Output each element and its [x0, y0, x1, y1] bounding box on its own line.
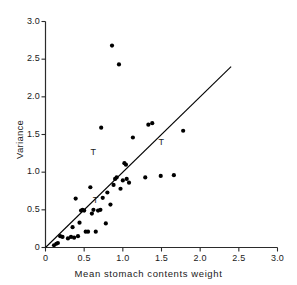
identity-line-path [46, 67, 232, 248]
data-point [131, 135, 135, 139]
data-point [127, 181, 131, 185]
plot-canvas [0, 0, 297, 285]
x-tick-label: 2.5 [224, 253, 254, 263]
data-point [121, 178, 125, 182]
data-points [52, 44, 185, 248]
data-point [105, 190, 109, 194]
y-tick-label: 1.0 [8, 166, 40, 176]
data-point [111, 183, 115, 187]
x-tick-label: 0.5 [69, 253, 99, 263]
data-point [90, 212, 94, 216]
data-point [98, 208, 102, 212]
y-tick-label: 0 [8, 242, 40, 252]
data-point [181, 129, 185, 133]
x-tick-label: 3.0 [263, 253, 293, 263]
x-tick-label: 2.0 [185, 253, 215, 263]
data-point [70, 225, 74, 229]
t-annotation: T [93, 196, 99, 205]
y-axis-title: Variance [14, 119, 25, 158]
data-point [150, 121, 154, 125]
data-point [88, 185, 92, 189]
data-point [146, 123, 150, 127]
data-point [101, 196, 105, 200]
data-point [77, 221, 81, 225]
y-tick-label: 2.0 [8, 91, 40, 101]
x-axis-title: Mean stomach contents weight [0, 268, 297, 279]
data-point [125, 177, 129, 181]
data-point [108, 202, 112, 206]
data-point [172, 173, 176, 177]
data-point [91, 208, 95, 212]
x-tick-label: 1.0 [108, 253, 138, 263]
data-point [117, 62, 121, 66]
data-point [56, 241, 60, 245]
x-tick-label: 0 [31, 253, 61, 263]
data-point [74, 196, 78, 200]
t-annotation: T [159, 138, 165, 147]
data-point [118, 187, 122, 191]
data-point [124, 163, 128, 167]
data-point [159, 174, 163, 178]
data-point [60, 235, 64, 239]
data-point [72, 236, 76, 240]
y-tick-label: 2.5 [8, 53, 40, 63]
y-tick-label: 0.5 [8, 204, 40, 214]
data-point [110, 44, 114, 48]
data-point [76, 234, 80, 238]
t-annotation: T [90, 148, 96, 157]
scatter-plot-figure: 00.51.01.52.02.53.0 00.51.01.52.02.53.0 … [0, 0, 297, 285]
identity-reference-line [46, 67, 232, 248]
data-point [99, 126, 103, 130]
y-tick-label: 3.0 [8, 16, 40, 26]
data-point [115, 175, 119, 179]
data-point [143, 175, 147, 179]
data-point [82, 208, 86, 212]
data-point [104, 221, 108, 225]
data-point [94, 230, 98, 234]
data-point [86, 230, 90, 234]
x-tick-label: 1.5 [147, 253, 177, 263]
